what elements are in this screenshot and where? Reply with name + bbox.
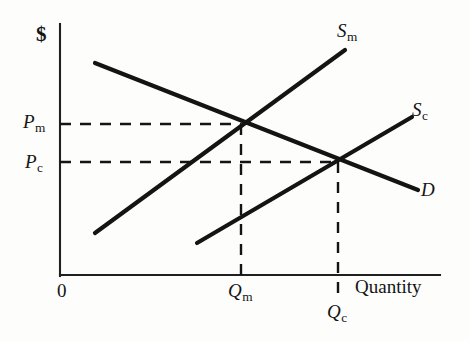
supply-monopoly-curve-label: Sm [337, 21, 357, 40]
quantity-monopoly-subscript: m [242, 289, 252, 304]
price-competitive-label: Pc [25, 152, 43, 171]
demand-curve [95, 63, 418, 190]
price-monopoly-label: Pm [23, 112, 45, 131]
supply-competitive-letter: S [412, 99, 422, 120]
y-axis-label-dollar: $ [36, 24, 47, 45]
quantity-competitive-subscript: c [341, 310, 347, 325]
quantity-monopoly-letter: Q [228, 280, 242, 301]
origin-label: 0 [57, 281, 67, 300]
quantity-competitive-label: Qc [327, 302, 347, 321]
price-competitive-letter: P [25, 151, 37, 172]
price-monopoly-subscript: m [35, 120, 45, 135]
supply-competitive-subscript: c [422, 108, 428, 123]
x-axis-label-quantity: Quantity [355, 277, 422, 296]
supply-demand-figure: $ Pm Pc 0 Qm Qc Quantity Sm Sc D [0, 0, 469, 341]
price-competitive-subscript: c [37, 160, 43, 175]
demand-curve-label: D [421, 180, 435, 199]
quantity-monopoly-label: Qm [228, 281, 253, 300]
supply-monopoly-letter: S [337, 20, 347, 41]
supply-monopoly-subscript: m [347, 29, 357, 44]
quantity-competitive-letter: Q [327, 301, 341, 322]
price-monopoly-letter: P [23, 111, 35, 132]
supply-competitive-curve-label: Sc [412, 100, 428, 119]
